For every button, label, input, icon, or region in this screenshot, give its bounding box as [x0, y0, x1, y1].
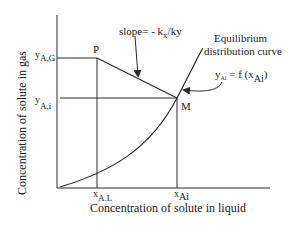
x-ai-tick: xAi: [174, 188, 189, 202]
point-p-label: P: [93, 43, 99, 55]
y-ag-tick: yA,G: [35, 49, 56, 63]
point-m-label: M: [181, 100, 191, 112]
slope-arrow: [135, 36, 138, 76]
equilibrium-curve: [60, 48, 203, 187]
slope-label: slope= - kx/ky: [119, 25, 182, 40]
equation-arrow: [184, 82, 222, 91]
y-axis-label: Concentration of solute in gas: [15, 51, 29, 195]
y-ai-tick: yA,i: [35, 94, 52, 111]
equilibrium-label-line1: Equilibrium: [214, 32, 268, 44]
equilibrium-label-line2: distribution curve: [204, 45, 282, 57]
equilibrium-equation: yAi = f (xAi): [215, 68, 268, 84]
diagram-canvas: Concentration of solute in gas Concentra…: [0, 0, 300, 225]
x-axis-label: Concentration of solute in liquid: [90, 201, 246, 215]
